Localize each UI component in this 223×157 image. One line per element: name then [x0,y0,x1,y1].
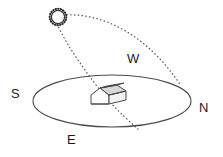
compass-label-east: E [67,133,76,146]
house [91,83,126,104]
diagram-canvas [0,0,223,157]
compass-label-north: N [199,101,208,114]
compass-label-south: S [11,87,20,100]
sun-icon [50,9,67,26]
compass-label-west: W [127,52,139,65]
sun-ray-line [57,24,139,130]
sun-path-diagram: S N E W [0,0,223,157]
